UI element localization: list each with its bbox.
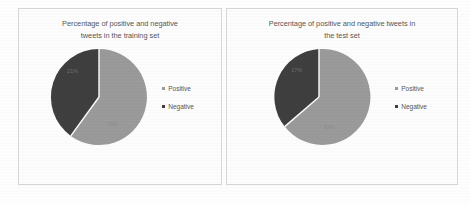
legend-label-positive: Positive xyxy=(401,85,424,92)
figure-container: Percentage of positive and negative twee… xyxy=(0,0,470,203)
pie-chart-test: 17% 83% xyxy=(267,45,371,149)
legend-training: Positive Negative xyxy=(162,85,194,121)
chart-title-test-line2: the test set xyxy=(241,30,443,42)
pie-chart-training: 21% 79% xyxy=(47,45,151,149)
plot-area-training: 21% 79% Positive Negative xyxy=(19,41,221,169)
test-set-panel: Percentage of positive and negative twee… xyxy=(226,8,458,185)
legend-item-negative-training[interactable]: Negative xyxy=(162,103,194,110)
chart-title-test-line1: Percentage of positive and negative twee… xyxy=(241,18,443,30)
legend-item-negative-test[interactable]: Negative xyxy=(395,103,427,110)
legend-marker-negative-icon xyxy=(395,105,398,108)
pie-svg-test xyxy=(267,45,371,149)
pie-label-negative-test: 17% xyxy=(291,67,302,73)
chart-title-test: Percentage of positive and negative twee… xyxy=(227,9,457,41)
plot-area-test: 17% 83% Positive Negative xyxy=(227,41,457,169)
legend-marker-positive-icon xyxy=(162,87,165,90)
chart-title-training: Percentage of positive and negative twee… xyxy=(19,9,221,41)
pie-label-negative-training: 21% xyxy=(67,68,78,74)
legend-label-negative: Negative xyxy=(401,103,427,110)
pie-label-positive-test: 83% xyxy=(324,124,335,130)
chart-title-training-line2: tweets in the training set xyxy=(35,30,205,42)
chart-title-training-line1: Percentage of positive and negative xyxy=(35,18,205,30)
legend-item-positive-test[interactable]: Positive xyxy=(395,85,427,92)
pie-svg-training xyxy=(47,45,151,149)
pie-label-positive-training: 79% xyxy=(107,121,118,127)
legend-label-negative: Negative xyxy=(168,103,194,110)
legend-item-positive-training[interactable]: Positive xyxy=(162,85,194,92)
legend-test: Positive Negative xyxy=(395,85,427,121)
legend-marker-positive-icon xyxy=(395,87,398,90)
legend-label-positive: Positive xyxy=(168,85,191,92)
training-set-panel: Percentage of positive and negative twee… xyxy=(18,8,222,185)
legend-marker-negative-icon xyxy=(162,105,165,108)
